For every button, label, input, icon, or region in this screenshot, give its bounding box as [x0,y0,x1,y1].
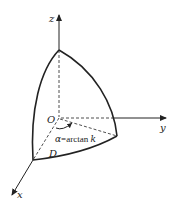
region-d-label: D [48,148,57,159]
z-axis-label: z [48,13,55,24]
y-axis-label: y [159,122,166,133]
angle-arc-icon [56,123,72,129]
angle-k: k [90,134,95,144]
x-axis-label: x [17,189,23,200]
diagram-canvas: z y x O α=arctan k D [0,0,177,211]
angle-formula: =arctan [61,134,90,144]
origin-label: O [47,114,55,125]
angle-label: α=arctan k [55,134,96,144]
